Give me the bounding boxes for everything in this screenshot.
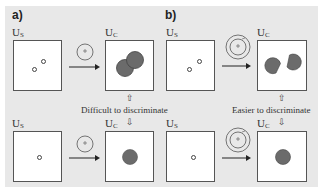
panel-a-bottom-us-box xyxy=(13,131,62,182)
panel-b-top-uc-box xyxy=(257,40,307,91)
stimulus-point xyxy=(37,155,42,160)
panel-b-note: Easier to discriminate xyxy=(232,105,310,115)
panel-a-top-uc-label: UC xyxy=(105,26,118,39)
down-arrow-icon: ⇩ xyxy=(126,118,134,127)
down-arrow-icon: ⇩ xyxy=(278,118,286,127)
panel-b-bottom-uc-label: UC xyxy=(257,117,270,130)
panel-a-label: a) xyxy=(12,8,23,22)
double-ring-kernel-icon xyxy=(223,128,257,158)
panel-b-top-uc-label: UC xyxy=(257,26,270,39)
arrow-right-icon xyxy=(222,155,254,161)
panel-a-bottom-uc-label: UC xyxy=(105,117,118,130)
panel-b-bottom-us-box xyxy=(166,131,215,182)
stimulus-point xyxy=(41,59,46,64)
panel-a-note: Difficult to discriminate xyxy=(81,105,168,115)
up-arrow-icon: ⇧ xyxy=(126,94,134,103)
panel-b-label: b) xyxy=(165,8,176,22)
merged-blob-icon xyxy=(106,41,155,92)
panel-a-top-us-label: US xyxy=(12,26,24,39)
arrow-right-icon xyxy=(69,64,101,70)
panel-b-top-us-label: US xyxy=(166,26,178,39)
panel-a-top-us-box xyxy=(13,40,62,91)
single-blob-icon xyxy=(106,132,155,183)
panel-b-top-us-box xyxy=(166,40,215,91)
stimulus-point xyxy=(32,67,37,72)
panel-a-bottom-uc-box xyxy=(105,131,154,182)
stimulus-point xyxy=(197,59,202,64)
panel-b-bottom-us-label: US xyxy=(166,117,178,130)
arrow-right-icon xyxy=(69,155,101,161)
single-blob-icon xyxy=(258,132,308,183)
panel-b-bottom-uc-box xyxy=(257,131,307,182)
stimulus-point xyxy=(187,67,192,72)
panel-a-top-uc-box xyxy=(105,40,154,91)
panel-a-bottom-us-label: US xyxy=(12,117,24,130)
arrow-right-icon xyxy=(222,63,254,69)
up-arrow-icon: ⇧ xyxy=(278,94,286,103)
separated-blobs-icon xyxy=(258,41,308,92)
stimulus-point xyxy=(191,155,196,160)
double-ring-kernel-icon xyxy=(223,33,257,63)
